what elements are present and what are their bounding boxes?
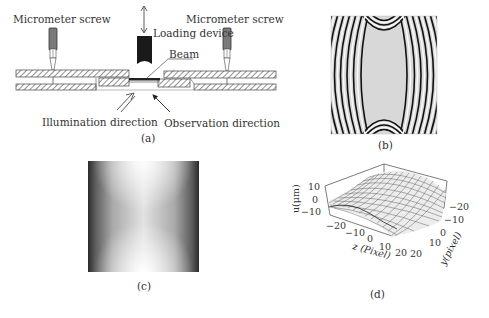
u-tick-0: 0 (312, 194, 318, 205)
label-micrometer-left: Micrometer screw (13, 14, 111, 25)
caption-a: (a) (141, 133, 155, 144)
y-tick-neg20: −20 (449, 201, 469, 212)
observation-arrow-icon (153, 95, 170, 112)
label-observation-direction: Observation direction (164, 118, 280, 129)
z-tick-0: 0 (367, 233, 373, 244)
caption-b: (b) (378, 140, 393, 151)
label-illumination-direction: Illumination direction (42, 117, 158, 128)
label-micrometer-right: Micrometer screw (186, 14, 284, 25)
upper-plate-left (16, 70, 129, 77)
u-axis-label: u(μm) (290, 184, 301, 213)
micrometer-screw-left-icon (49, 28, 57, 70)
label-beam: Beam (169, 49, 199, 60)
y-tick-20: 20 (410, 248, 422, 259)
upper-plate-right (164, 71, 276, 78)
label-loading-device: Loading device (153, 28, 234, 39)
z-tick-neg20: −20 (326, 220, 346, 231)
y-tick-10: 10 (429, 237, 441, 248)
loading-device-icon (137, 6, 152, 64)
caption-c: (c) (137, 281, 151, 292)
lower-plate-left (16, 84, 96, 90)
y-tick-neg10: −10 (444, 214, 464, 225)
fringe-pattern-image (331, 16, 437, 134)
surface-plot: 10 0 −10 −20 −10 0 10 20 −20 −10 0 10 20… (289, 163, 489, 293)
clamp-left (99, 78, 129, 86)
z-tick-neg10: −10 (345, 227, 365, 238)
lower-plate-right (194, 84, 276, 90)
illumination-arrow-icon (117, 93, 135, 112)
caption-d: (d) (370, 289, 385, 300)
unwrapped-phase-image (88, 161, 199, 272)
z-tick-20: 20 (395, 247, 407, 258)
u-tick-neg10: −10 (301, 206, 321, 217)
clamp-right (158, 79, 190, 87)
u-tick-10: 10 (308, 181, 320, 192)
beam (129, 78, 160, 81)
